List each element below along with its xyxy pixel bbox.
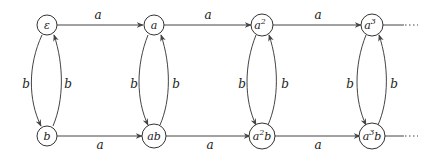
state-a3: a3 xyxy=(361,14,383,36)
state-epsilon: ε xyxy=(37,15,57,35)
edge-label: b xyxy=(390,77,398,91)
edge-label: a xyxy=(96,138,103,152)
edges-b: b b b b b b b b xyxy=(22,35,398,126)
state-label: ε xyxy=(44,19,50,32)
edge-a-ab xyxy=(139,35,148,125)
state-a: a xyxy=(144,15,164,35)
edge-label: b xyxy=(130,77,138,91)
edge-label: b xyxy=(281,77,289,91)
state-label: ab xyxy=(147,130,161,143)
edge-label: a xyxy=(314,8,321,22)
state-label: a xyxy=(151,19,158,32)
edge-e-b xyxy=(31,35,42,126)
state-a2: a2 xyxy=(251,14,273,36)
edge-label: b xyxy=(346,77,354,91)
edge-b-e xyxy=(53,35,61,126)
edge-label: b xyxy=(22,77,30,91)
edge-label: a xyxy=(94,8,101,22)
state-ab: ab xyxy=(142,124,166,148)
edge-a3b-a3 xyxy=(378,35,386,125)
edge-label: b xyxy=(64,77,72,91)
edge-a3-a3b xyxy=(357,35,366,125)
state-a3b: a3b xyxy=(359,123,385,149)
state-a2b: a2b xyxy=(249,123,275,149)
edge-label: a xyxy=(314,138,321,152)
automaton-diagram: a a a a a a b b b b b b b b xyxy=(0,0,439,154)
edge-ab-a xyxy=(160,35,168,125)
edge-a2b-a2 xyxy=(268,35,276,125)
edge-label: a xyxy=(206,138,213,152)
state-label: b xyxy=(43,130,50,143)
state-b: b xyxy=(37,126,57,146)
edge-a2-a2b xyxy=(247,35,256,125)
edge-label: b xyxy=(172,77,180,91)
edge-label: b xyxy=(238,77,246,91)
edge-label: a xyxy=(204,8,211,22)
